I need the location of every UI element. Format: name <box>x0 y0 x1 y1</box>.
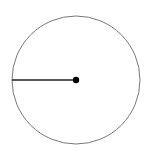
circle-diagram <box>0 0 149 155</box>
center-point <box>73 77 79 83</box>
